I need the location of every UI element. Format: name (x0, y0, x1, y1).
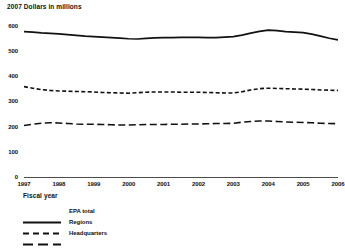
y-tick-label-300: 300 (0, 98, 18, 104)
x-tick-label-2001: 2001 (149, 181, 179, 187)
x-tick-label-2003: 2003 (218, 181, 248, 187)
y-tick-label-400: 400 (0, 73, 18, 79)
x-tick-label-2002: 2002 (183, 181, 213, 187)
plot-svg (24, 14, 338, 178)
legend-swatch-solid (23, 211, 61, 216)
y-tick-label-0: 0 (0, 174, 18, 180)
x-tick-label-2005: 2005 (288, 181, 318, 187)
chart-legend: EPA totalRegionsHeadquarters (23, 208, 223, 241)
chart-title: 2007 Dollars in millions (7, 3, 82, 10)
x-tick-label-1997: 1997 (9, 181, 39, 187)
y-tick-label-600: 600 (0, 23, 18, 29)
x-axis-title: Fiscal year (23, 192, 58, 199)
legend-label: Headquarters (69, 230, 107, 236)
legend-item-regions: Regions (23, 219, 223, 230)
legend-item-headquarters: Headquarters (23, 230, 223, 241)
y-tick-label-500: 500 (0, 48, 18, 54)
series-line-regions (24, 87, 338, 94)
legend-label: EPA total (69, 208, 95, 214)
plot-area (24, 14, 338, 178)
x-tick-label-1998: 1998 (44, 181, 74, 187)
series-line-headquarters (24, 121, 338, 126)
legend-swatch-longdash (23, 233, 61, 238)
series-line-epa-total (24, 30, 338, 40)
x-tick-label-2004: 2004 (253, 181, 283, 187)
legend-swatch-dashed (23, 222, 61, 227)
legend-item-epa-total: EPA total (23, 208, 223, 219)
x-tick-label-2000: 2000 (114, 181, 144, 187)
y-tick-label-100: 100 (0, 149, 18, 155)
x-tick-label-2006: 2006 (323, 181, 345, 187)
x-tick-label-1999: 1999 (79, 181, 109, 187)
y-tick-label-200: 200 (0, 124, 18, 130)
legend-label: Regions (69, 219, 92, 225)
